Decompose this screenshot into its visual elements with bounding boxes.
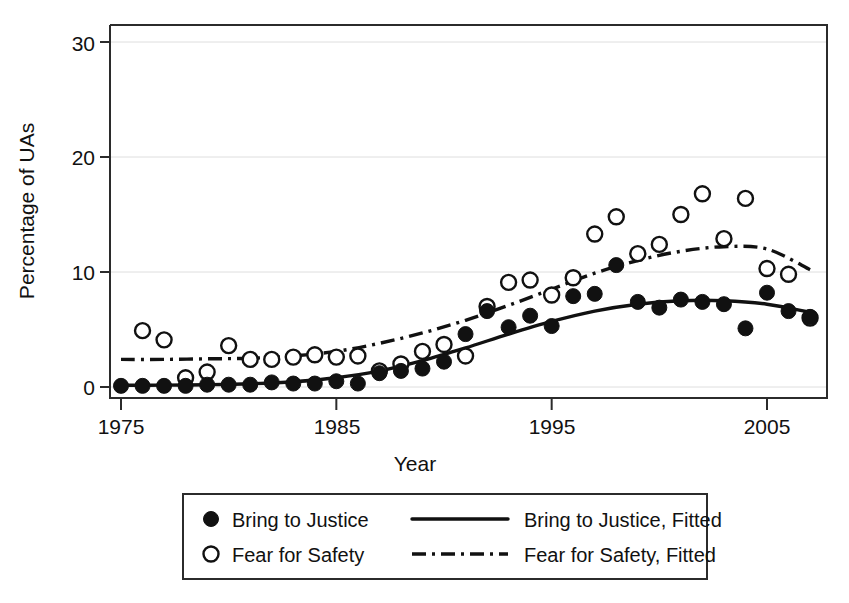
x-axis-title: Year (394, 452, 436, 475)
data-point (243, 377, 258, 392)
y-tick-label-10: 10 (72, 261, 95, 284)
percentage-of-uas-scatter-chart: 30 20 10 0 1975 1985 1995 2005 Year Perc… (0, 0, 849, 603)
y-axis-title: Percentage of UAs (15, 123, 38, 299)
data-point (523, 273, 538, 288)
y-tick-label-30: 30 (72, 32, 95, 55)
data-point (157, 332, 172, 347)
data-point (157, 378, 172, 393)
data-point (738, 321, 753, 336)
data-point (178, 378, 193, 393)
data-point (480, 304, 495, 319)
data-point (587, 227, 602, 242)
data-point (286, 376, 301, 391)
data-point (760, 261, 775, 276)
data-point (221, 338, 236, 353)
data-point (566, 289, 581, 304)
legend-box (183, 494, 707, 579)
data-point (329, 374, 344, 389)
data-point (135, 323, 150, 338)
data-point (803, 309, 818, 324)
data-point (135, 378, 150, 393)
legend-label-fear-for-safety: Fear for Safety (232, 544, 364, 566)
data-point (243, 352, 258, 367)
data-point (544, 319, 559, 334)
data-point (609, 258, 624, 273)
data-point (415, 361, 430, 376)
legend-label-fear-for-safety-fitted: Fear for Safety, Fitted (524, 544, 716, 566)
data-point (695, 294, 710, 309)
data-point (307, 347, 322, 362)
data-point (781, 304, 796, 319)
data-point (716, 297, 731, 312)
data-point (264, 352, 279, 367)
data-point (501, 320, 516, 335)
data-point (307, 376, 322, 391)
data-point (566, 270, 581, 285)
data-point (114, 378, 129, 393)
data-point (415, 344, 430, 359)
y-tick-label-20: 20 (72, 146, 95, 169)
x-tick-label-1995: 1995 (529, 415, 576, 438)
data-point (264, 375, 279, 390)
data-point (609, 209, 624, 224)
data-point (501, 275, 516, 290)
data-point (673, 292, 688, 307)
chart-figure: 30 20 10 0 1975 1985 1995 2005 Year Perc… (0, 0, 849, 603)
data-point (652, 300, 667, 315)
data-point (695, 186, 710, 201)
data-point (544, 288, 559, 303)
data-point (738, 191, 753, 206)
data-point (523, 308, 538, 323)
data-point (200, 377, 215, 392)
data-point (437, 337, 452, 352)
data-point (630, 294, 645, 309)
x-tick-label-2005: 2005 (744, 415, 791, 438)
y-tick-label-0: 0 (83, 376, 95, 399)
data-point (673, 207, 688, 222)
data-point (760, 285, 775, 300)
data-point (458, 327, 473, 342)
x-tick-label-1975: 1975 (98, 415, 145, 438)
data-point (652, 237, 667, 252)
data-point (329, 350, 344, 365)
data-point (630, 246, 645, 261)
data-point (286, 350, 301, 365)
data-point (587, 286, 602, 301)
legend-filled-circle-marker-icon (204, 512, 219, 527)
data-point (716, 231, 731, 246)
legend-label-bring-to-justice-fitted: Bring to Justice, Fitted (524, 509, 722, 531)
data-point (221, 377, 236, 392)
x-tick-label-1985: 1985 (314, 415, 361, 438)
legend-label-bring-to-justice: Bring to Justice (232, 509, 369, 531)
legend-open-circle-marker-icon (204, 547, 219, 562)
data-point (393, 363, 408, 378)
data-point (372, 366, 387, 381)
data-point (458, 348, 473, 363)
data-point (781, 267, 796, 282)
data-point (350, 376, 365, 391)
data-point (350, 348, 365, 363)
data-point (437, 354, 452, 369)
chart-legend: Bring to Justice Bring to Justice, Fitte… (183, 494, 722, 579)
